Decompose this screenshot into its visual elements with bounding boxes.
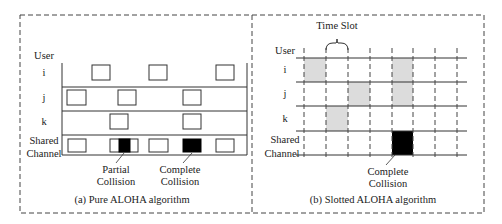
- time-slot-brace-icon: [326, 39, 348, 50]
- frame-box: [118, 90, 136, 105]
- collision-block: [183, 139, 201, 152]
- row-label-k: k: [41, 116, 47, 127]
- pure-caption: (a) Pure ALOHA algorithm: [74, 194, 189, 206]
- transmission-slot: [304, 58, 326, 82]
- complete-collision-line1: Complete: [160, 164, 201, 175]
- row-label-i: i: [43, 67, 46, 78]
- frame-box: [216, 65, 234, 80]
- row-label-j: j: [42, 92, 46, 103]
- shared-label-line1: Shared: [270, 134, 300, 145]
- shared-label-line2: Channel: [27, 148, 62, 159]
- row-label-i: i: [284, 64, 287, 75]
- frame-box: [149, 65, 167, 80]
- transmission-slot: [392, 58, 413, 82]
- shared-frame-box: [68, 139, 86, 152]
- user-axis-label: User: [34, 50, 54, 61]
- outer-frame: [20, 15, 484, 213]
- frame-box: [183, 90, 201, 105]
- shared-frame-box: [216, 139, 234, 152]
- pure-frames: [67, 65, 234, 152]
- frame-box: [92, 65, 110, 80]
- complete-collision-line1: Complete: [368, 166, 409, 177]
- row-label-j: j: [283, 88, 287, 99]
- aloha-diagram: User i j k Shared Channel Partial Collis…: [0, 0, 502, 224]
- slotted-caption: (b) Slotted ALOHA algorithm: [310, 194, 436, 206]
- pure-aloha-panel: User i j k Shared Channel Partial Collis…: [27, 50, 248, 206]
- shared-frame-box: [149, 139, 168, 152]
- frame-box: [110, 114, 128, 129]
- partial-collision-line2: Collision: [97, 176, 136, 187]
- shared-label-line1: Shared: [29, 135, 59, 146]
- collision-block: [119, 139, 130, 152]
- row-label-k: k: [282, 113, 288, 124]
- shared-label-line2: Channel: [265, 148, 300, 159]
- transmission-slot: [326, 106, 348, 131]
- frame-box: [67, 90, 86, 105]
- slotted-leader: [386, 155, 395, 165]
- frame-box: [183, 114, 201, 129]
- slotted-grid-v: [304, 48, 457, 157]
- partial-collision-line1: Partial: [102, 164, 129, 175]
- slotted-aloha-panel: Time Slot User i j k Shared Channel Comp…: [265, 20, 468, 206]
- time-slot-label: Time Slot: [316, 20, 357, 31]
- complete-collision-line2: Collision: [161, 176, 200, 187]
- transmission-slot: [392, 82, 413, 106]
- complete-collision-line2: Collision: [369, 178, 408, 189]
- transmission-slot: [348, 82, 370, 106]
- user-axis-label: User: [275, 45, 295, 56]
- collision-block: [392, 131, 413, 155]
